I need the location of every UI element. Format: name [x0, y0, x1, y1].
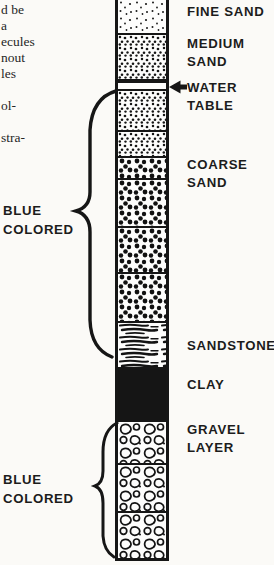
water-table-arrow-icon — [169, 81, 187, 94]
layer-sandstone — [118, 321, 166, 367]
layer-gravel-2 — [118, 463, 166, 511]
layer-gravel-3 — [118, 511, 166, 558]
layer-sand-below-water-1 — [118, 89, 166, 130]
layer-label-gravel-layer: GRAVEL LAYER — [187, 421, 245, 457]
layer-coarse-sand-1 — [118, 156, 166, 178]
layer-label-clay: CLAY — [187, 376, 225, 394]
geo-column — [115, 0, 169, 561]
layer-fine-sand — [118, 0, 166, 33]
layer-medium-sand — [118, 33, 166, 79]
scanned-page: d be a ecules nout les ol- stra- FINE SA… — [0, 0, 274, 565]
layer-label-coarse-sand: COARSE SAND — [187, 156, 248, 192]
layer-label-water-table: WATER TABLE — [187, 79, 237, 115]
layer-label-medium-sand: MEDIUM SAND — [187, 35, 245, 71]
layer-coarse-sand-4 — [118, 272, 166, 321]
layer-label-sandstone: SANDSTONE — [187, 337, 274, 355]
layer-clay — [118, 367, 166, 420]
layer-coarse-sand-3 — [118, 226, 166, 272]
cutoff-body-text: d be a ecules nout les ol- stra- — [1, 2, 35, 146]
upper-brace-icon — [76, 91, 116, 357]
layer-gravel-1 — [118, 420, 166, 463]
note-label-blue-colored-lower: BLUE COLORED — [3, 470, 74, 508]
note-label-blue-colored-upper: BLUE COLORED — [3, 201, 74, 239]
layer-label-fine-sand: FINE SAND — [187, 3, 264, 21]
lower-brace-icon — [95, 423, 117, 557]
layer-coarse-sand-2 — [118, 178, 166, 226]
layer-sand-below-water-2 — [118, 130, 166, 156]
